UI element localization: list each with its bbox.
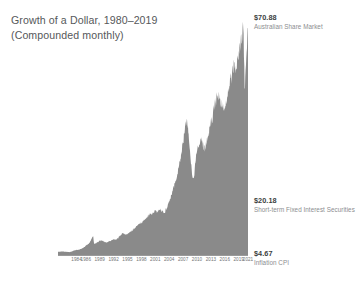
endpoint-name-inflation: Inflation CPI — [254, 259, 358, 267]
plot-area — [58, 18, 248, 255]
endpoint-label-fixed-interest: $20.18 Short-term Fixed Interest Securit… — [254, 196, 358, 214]
endpoint-name-equities: Australian Share Market — [254, 23, 358, 31]
endpoint-label-australian-share-market: $70.88 Australian Share Market — [254, 13, 358, 31]
endpoint-label-inflation-cpi: $4.67 Inflation CPI — [254, 249, 358, 267]
endpoint-value-inflation: $4.67 — [254, 249, 358, 259]
endpoint-name-fixed: Short-term Fixed Interest Securities — [254, 206, 358, 214]
endpoint-value-equities: $70.88 — [254, 13, 358, 23]
australian-share-market-area — [58, 22, 248, 255]
x-tick-label: 2013 — [206, 256, 216, 264]
x-tick-label: 1986 — [81, 256, 91, 264]
x-tick-label: 2021 — [243, 256, 253, 264]
x-tick-label: 1998 — [136, 256, 146, 264]
x-tick-label: 1989 — [94, 256, 104, 264]
growth-of-a-dollar-chart: Growth of a Dollar, 1980–2019 (Compounde… — [0, 0, 360, 285]
endpoint-value-fixed: $20.18 — [254, 196, 358, 206]
x-tick-label: 1992 — [108, 256, 118, 264]
area-series-svg — [58, 18, 248, 255]
x-tick-label: 2004 — [164, 256, 174, 264]
x-tick-label: 2007 — [178, 256, 188, 264]
x-tick-label: 2001 — [150, 256, 160, 264]
x-axis-tick-labels: 1984198619891992199519982001200420072010… — [58, 256, 252, 268]
x-tick-label: 2010 — [192, 256, 202, 264]
x-tick-label: 1995 — [122, 256, 132, 264]
x-tick-label: 2016 — [220, 256, 230, 264]
